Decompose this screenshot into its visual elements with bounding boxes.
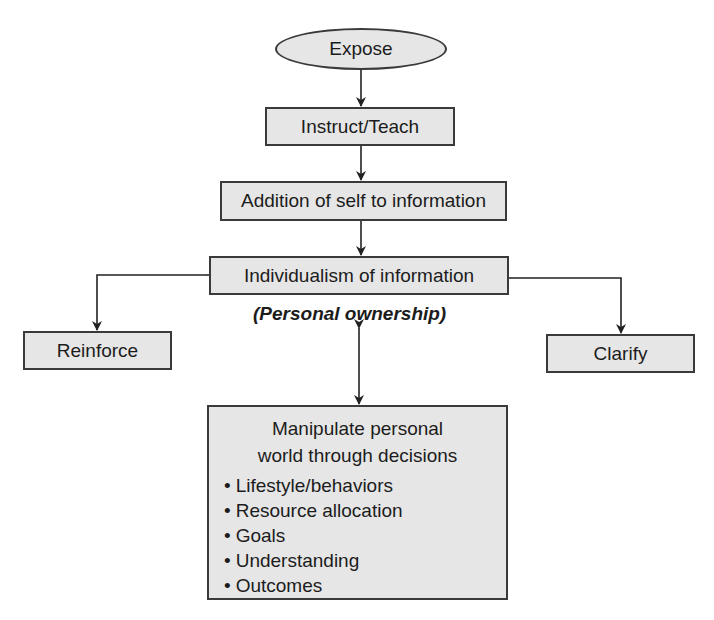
manipulate-node: Manipulate personal world through decisi…: [207, 405, 508, 600]
manipulate-title-line1: Manipulate personal: [209, 415, 506, 442]
expose-label: Expose: [329, 38, 392, 60]
expose-node: Expose: [275, 28, 447, 70]
clarify-label: Clarify: [594, 343, 648, 365]
instruct-teach-label: Instruct/Teach: [301, 116, 419, 138]
clarify-node: Clarify: [546, 334, 695, 373]
list-item: Resource allocation: [224, 498, 506, 523]
addition-node: Addition of self to information: [220, 181, 507, 221]
arrow-individualism-reinforce: [97, 275, 208, 330]
manipulate-title-line2: world through decisions: [209, 442, 506, 469]
list-item: Lifestyle/behaviors: [224, 473, 506, 498]
individualism-label: Individualism of information: [244, 265, 474, 287]
list-item: Goals: [224, 523, 506, 548]
reinforce-label: Reinforce: [57, 340, 138, 362]
addition-label: Addition of self to information: [241, 190, 486, 212]
arrow-individualism-clarify: [510, 278, 621, 333]
list-item: Outcomes: [224, 573, 506, 598]
individualism-node: Individualism of information: [209, 256, 509, 295]
reinforce-node: Reinforce: [23, 331, 172, 370]
instruct-teach-node: Instruct/Teach: [265, 107, 455, 146]
manipulate-title: Manipulate personal world through decisi…: [209, 415, 506, 469]
list-item: Understanding: [224, 548, 506, 573]
decision-list: Lifestyle/behaviors Resource allocation …: [209, 473, 506, 598]
personal-ownership-note: (Personal ownership): [253, 303, 446, 325]
